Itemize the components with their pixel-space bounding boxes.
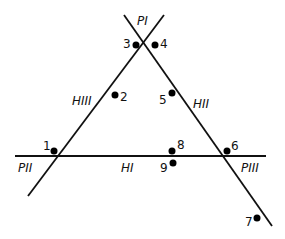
- point-1: [51, 148, 58, 155]
- line-h-ii: [124, 15, 272, 226]
- point-6: [224, 148, 231, 155]
- label-p-ii: PII: [18, 161, 33, 175]
- point-3: [133, 42, 140, 49]
- point-label-7: 7: [245, 215, 253, 229]
- label-h-ii: HII: [193, 97, 210, 111]
- point-label-3: 3: [123, 37, 131, 51]
- line-triangle-diagram: PI PII PIII HI HII HIII 1 2 3 4 5 6 7 8 …: [0, 0, 285, 239]
- point-7: [254, 215, 261, 222]
- point-label-8: 8: [177, 138, 185, 152]
- line-h-iii: [28, 15, 164, 196]
- point-label-2: 2: [120, 90, 128, 104]
- point-5: [169, 90, 176, 97]
- point-4: [152, 42, 159, 49]
- point-9: [170, 160, 177, 167]
- label-h-i: HI: [121, 161, 134, 175]
- point-2: [112, 92, 119, 99]
- point-label-6: 6: [231, 139, 239, 153]
- label-p-i: PI: [137, 14, 148, 28]
- point-8: [169, 148, 176, 155]
- point-label-5: 5: [159, 93, 167, 107]
- point-label-9: 9: [160, 161, 168, 175]
- label-h-iii: HIII: [72, 94, 92, 108]
- point-label-1: 1: [43, 139, 51, 153]
- point-label-4: 4: [160, 37, 168, 51]
- label-p-iii: PIII: [241, 161, 259, 175]
